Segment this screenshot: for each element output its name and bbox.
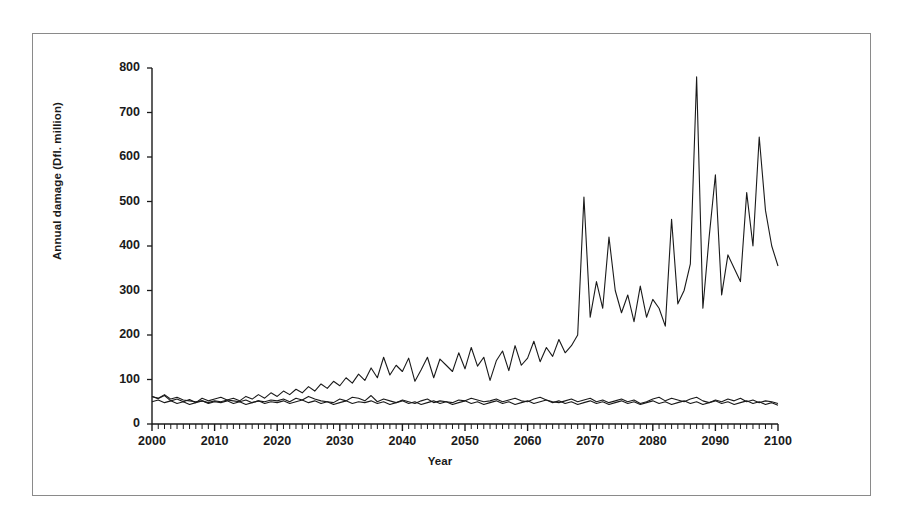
x-axis-minor-ticks xyxy=(152,424,778,431)
chart-plot-area xyxy=(0,0,901,527)
data-series-lines xyxy=(152,77,778,405)
axis-lines xyxy=(152,68,778,424)
figure-container: Annual damage (Dfl. million) Year 010020… xyxy=(0,0,901,527)
series-line-lower-scenario xyxy=(152,400,778,405)
series-line-upper-scenario xyxy=(152,77,778,403)
y-axis-ticks xyxy=(147,68,152,424)
